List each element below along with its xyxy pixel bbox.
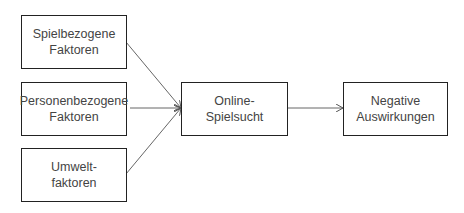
edge-umwelt-online — [126, 108, 181, 174]
node-personenbezogene-faktoren: Personenbezogene Faktoren — [21, 82, 127, 136]
node-spielbezogene-faktoren: Spielbezogene Faktoren — [21, 15, 127, 69]
node-label: Online- Spielsucht — [206, 93, 264, 125]
node-label: Personenbezogene Faktoren — [20, 93, 128, 125]
node-negative-auswirkungen: Negative Auswirkungen — [343, 82, 448, 136]
node-online-spielsucht: Online- Spielsucht — [181, 82, 288, 136]
edge-spielbezogene-online — [126, 42, 181, 108]
node-label: Umwelt- faktoren — [51, 159, 97, 191]
node-label: Spielbezogene Faktoren — [33, 26, 116, 58]
node-umweltfaktoren: Umwelt- faktoren — [21, 148, 127, 202]
node-label: Negative Auswirkungen — [356, 93, 435, 125]
